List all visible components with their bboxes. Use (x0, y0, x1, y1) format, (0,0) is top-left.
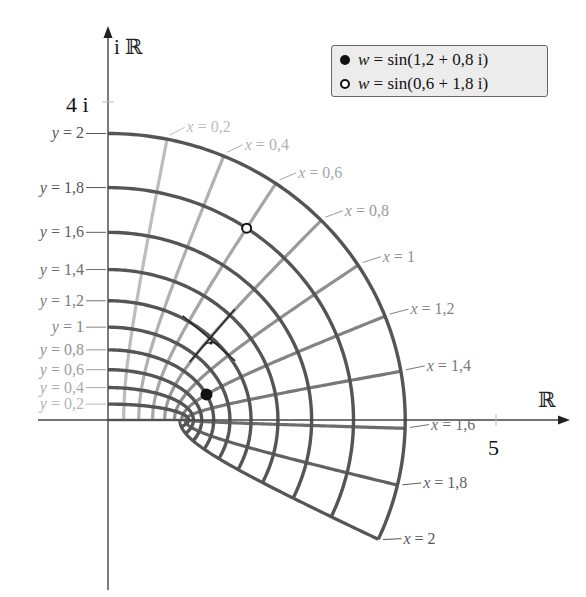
real-tick-label: 5 (488, 435, 499, 460)
y-line-label: y = 0,4 (38, 379, 84, 397)
x-label-leader (402, 483, 421, 485)
real-axis-label: ℝ (538, 388, 556, 412)
x-curve (187, 420, 405, 428)
legend: w = sin(1,2 + 0,8 i) w = sin(0,6 + 1,8 i… (331, 45, 548, 97)
y-line-label: y = 2 (50, 124, 84, 142)
y-line-label: y = 1,2 (38, 292, 84, 310)
x-label-leader (383, 539, 402, 540)
x-curve (139, 156, 224, 420)
y-curve (108, 301, 251, 470)
x-curve (185, 420, 398, 485)
y-line-labels: y = 0,2y = 0,4y = 0,6y = 0,8y = 1y = 1,2… (38, 124, 106, 413)
filled-point-icon (200, 389, 212, 401)
x-label-leader (227, 145, 243, 153)
legend-var: w (358, 74, 369, 93)
x-label-leader (410, 425, 429, 428)
x-label-leader (279, 173, 296, 180)
x-line-label: x = 0,2 (186, 118, 231, 135)
open-point-icon (242, 224, 251, 233)
x-label-leader (325, 211, 343, 218)
legend-item-filled: w = sin(1,2 + 0,8 i) (340, 48, 547, 72)
axes: ℝ i ℝ 5 4 i (38, 26, 570, 590)
legend-text: = sin(1,2 + 0,8 i) (369, 50, 488, 69)
x-label-leader (406, 366, 425, 370)
imag-tick-label: 4 i (66, 92, 89, 117)
legend-var: w (358, 50, 369, 69)
x-line-label: x = 1 (382, 248, 415, 265)
legend-text: = sin(0,6 + 1,8 i) (369, 74, 488, 93)
x-line-label: x = 1,8 (422, 474, 467, 491)
real-axis-arrow-icon (558, 416, 570, 425)
x-line-label: x = 0,8 (344, 202, 389, 219)
x-line-label: x = 1,4 (426, 357, 471, 374)
imag-axis-arrow-icon (104, 26, 113, 38)
y-line-label: y = 1,8 (38, 179, 84, 197)
y-line-label: y = 0,6 (38, 361, 84, 379)
legend-item-open: w = sin(0,6 + 1,8 i) (340, 72, 547, 96)
y-line-label: y = 1,6 (38, 223, 84, 241)
y-line-label: y = 0,8 (38, 341, 84, 359)
filled-dot-icon (340, 55, 350, 65)
y-line-label: y = 1 (50, 318, 84, 336)
x-line-label: x = 1,6 (430, 416, 475, 433)
x-line-label: x = 1,2 (409, 300, 454, 317)
imag-axis-label: i ℝ (114, 35, 143, 59)
y-line-label: y = 1,4 (38, 261, 84, 279)
open-dot-icon (340, 79, 350, 89)
x-line-label: x = 0,4 (244, 136, 289, 153)
x-line-label: x = 0,6 (297, 164, 342, 181)
y-line-label: y = 0,2 (38, 395, 84, 413)
x-label-leader (390, 309, 409, 314)
x-label-leader (363, 257, 381, 263)
right-angle-dot (209, 341, 212, 344)
x-line-label: x = 2 (402, 530, 435, 547)
tangent-line (183, 316, 235, 361)
x-label-leader (170, 127, 185, 135)
